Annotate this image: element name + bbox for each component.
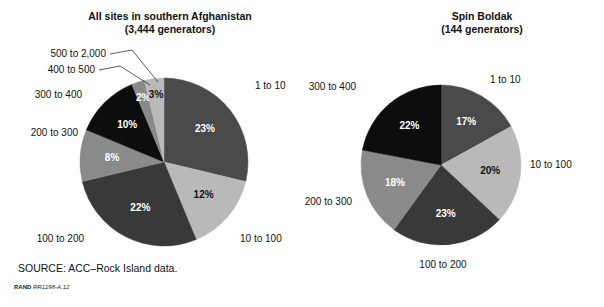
slice-percent-label: 23%	[436, 208, 456, 219]
pie-all-sites: 23%12%22%8%10%2%3%1 to 1010 to 100100 to…	[31, 48, 286, 246]
category-label: 100 to 200	[37, 233, 85, 244]
category-label: 10 to 100	[530, 159, 572, 170]
slice-percent-label: 22%	[399, 120, 419, 131]
source-note: SOURCE: ACC–Rock Island data.	[18, 262, 177, 274]
slice-percent-label: 22%	[130, 202, 150, 213]
credit-number: RR1298-A.12	[33, 284, 69, 290]
category-label: 100 to 200	[419, 259, 467, 270]
slice-percent-label: 17%	[456, 116, 476, 127]
category-label: 300 to 400	[35, 89, 83, 100]
category-label: 200 to 300	[31, 127, 79, 138]
credit-org: RAND	[14, 284, 31, 290]
slice-percent-label: 8%	[105, 152, 120, 163]
slice-percent-label: 20%	[480, 165, 500, 176]
category-label: 200 to 300	[305, 196, 353, 207]
figure-pie-charts: All sites in southern Afghanistan (3,444…	[0, 0, 604, 307]
pie-chart-canvas: 23%12%22%8%10%2%3%1 to 1010 to 100100 to…	[0, 0, 604, 307]
category-label: 10 to 100	[240, 233, 282, 244]
category-label: 1 to 10	[490, 74, 521, 85]
category-label: 1 to 10	[255, 80, 286, 91]
rand-credit: RAND RR1298-A.12	[14, 284, 69, 290]
slice-percent-label: 3%	[149, 89, 164, 100]
slice-percent-label: 18%	[385, 177, 405, 188]
slice-percent-label: 23%	[195, 123, 215, 134]
category-label: 500 to 2,000	[50, 48, 106, 59]
callout-leader-line	[110, 50, 158, 82]
pie-spin-boldak: 17%20%23%18%22%1 to 1010 to 100100 to 20…	[305, 74, 572, 270]
category-label: 400 to 500	[48, 64, 96, 75]
slice-percent-label: 10%	[117, 119, 137, 130]
slice-percent-label: 12%	[194, 189, 214, 200]
category-label: 300 to 400	[309, 81, 357, 92]
